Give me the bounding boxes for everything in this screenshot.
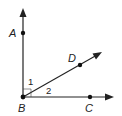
arrowhead-icon: [93, 52, 103, 60]
ray-bd: [23, 52, 102, 97]
point-b: [21, 95, 26, 100]
point-c: [88, 95, 92, 99]
angle-diagram: A D B C 1 2: [0, 0, 122, 116]
ray-bc: [23, 94, 114, 101]
arrowhead-icon: [20, 8, 27, 17]
point-d: [78, 63, 82, 67]
arrowhead-icon: [105, 94, 114, 101]
label-angle-1: 1: [28, 76, 33, 87]
ray-ba: [20, 8, 27, 97]
label-a: A: [8, 27, 16, 39]
label-d: D: [68, 52, 76, 64]
label-b: B: [18, 102, 25, 114]
label-angle-2: 2: [46, 85, 51, 96]
label-c: C: [85, 102, 93, 114]
point-a: [21, 31, 25, 35]
